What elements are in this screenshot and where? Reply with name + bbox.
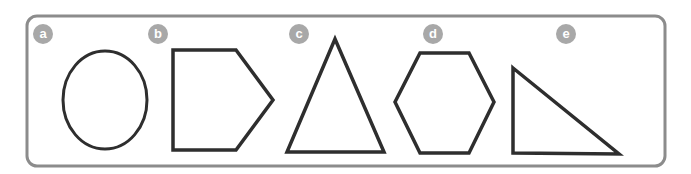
oval-shape — [63, 51, 147, 149]
isosceles-triangle-shape — [287, 39, 384, 152]
label-badge-b: b — [148, 24, 168, 44]
right-triangle-shape — [513, 68, 619, 154]
label-badge-e: e — [556, 24, 576, 44]
label-badge-c: c — [289, 24, 309, 44]
label-badge-a: a — [33, 24, 53, 44]
diagram-canvas — [0, 0, 691, 174]
pentagon-shape — [173, 50, 273, 150]
label-badge-d: d — [423, 24, 443, 44]
hexagon-shape — [395, 53, 494, 153]
